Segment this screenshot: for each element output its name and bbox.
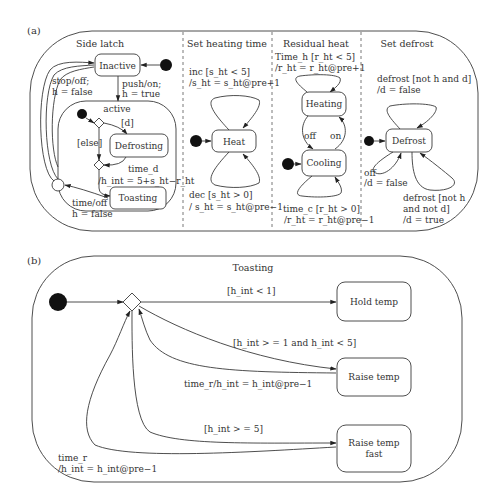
transition-label: defrost [not h <box>403 193 465 203</box>
transition-label: [h_int < 1] <box>227 286 276 297</box>
transition-label: /h_int = 5+s_ht−r_ht <box>98 176 195 187</box>
initial-state-dot <box>190 135 202 147</box>
transition-label: defrost [not h and d] <box>377 74 471 84</box>
region-title: Set defrost <box>380 38 433 49</box>
transition-label: [else] <box>77 138 102 148</box>
initial-state-dot <box>282 158 294 170</box>
transition-label: time_d <box>128 164 159 175</box>
transition-label: [h_int > = 1 and h_int < 5] <box>233 338 356 349</box>
region-title: Residual heat <box>283 38 349 49</box>
transition-label: Time_h [r_ht < 5] <box>275 52 355 63</box>
transition-label: and not d] <box>403 204 450 214</box>
choice-pseudostate <box>94 118 104 128</box>
transition-label: /d = true <box>403 215 444 225</box>
transition-label: h = true <box>122 89 160 99</box>
state-label: active <box>103 104 130 114</box>
transition-label: /d = false <box>377 85 421 95</box>
state-label: fast <box>366 449 383 459</box>
state-label: Defrosting <box>115 141 164 151</box>
transition-label: h = false <box>72 209 113 219</box>
state-title: Toasting <box>233 262 274 273</box>
panel-b: (b) Toasting [h_int < 1] Hold temp [h_in… <box>27 255 462 482</box>
transition-label: / s_ht = s_ht@pre−1 <box>189 202 283 213</box>
transition-label: h = false <box>52 87 93 97</box>
region-title: Set heating time <box>187 38 267 49</box>
panel-a: (a) Side latch Inactive push/on; h = tru… <box>27 25 478 231</box>
choice-pseudostate <box>94 160 104 170</box>
transition-label: time_c [r_ht > 0] <box>283 204 360 215</box>
transition-label: /d = false <box>364 178 408 188</box>
transition-label: on <box>330 131 341 141</box>
region-title: Side latch <box>76 38 124 49</box>
transition-label: [d] <box>121 118 134 128</box>
transition-label: off <box>304 131 316 141</box>
state-label: Cooling <box>306 158 341 168</box>
transition-label: inc [s_ht < 5] <box>189 67 250 78</box>
state-label: Raise temp <box>348 438 400 448</box>
state-label: Defrost <box>392 136 426 146</box>
state-label: Toasting <box>119 193 158 203</box>
transition-label: time/off <box>72 198 108 208</box>
transition-label: off <box>364 168 376 178</box>
initial-state-dot <box>49 293 67 311</box>
transition-label: /r_ht = r_ht@pre−1 <box>284 215 374 226</box>
transition-label: push/on; <box>122 79 161 89</box>
state-label: Heat <box>223 137 246 147</box>
transition-label: time_r/h_int = h_int@pre−1 <box>184 379 312 390</box>
transition-label: time_r <box>58 453 88 464</box>
transition-label: stop/off; <box>52 76 89 86</box>
region-residual-heat: Residual heat Time_h [r_ht < 5] /r_ht = … <box>275 38 374 226</box>
panel-b-label: (b) <box>27 255 41 266</box>
initial-state-dot <box>77 109 87 119</box>
initial-state-dot <box>364 136 374 146</box>
choice-pseudostate <box>123 293 141 311</box>
panel-a-label: (a) <box>27 25 41 36</box>
state-label: Raise temp <box>348 372 400 382</box>
transition-label: [h_int > = 5] <box>204 424 263 435</box>
state-label: Hold temp <box>350 297 398 307</box>
region-side-latch: Side latch Inactive push/on; h = true ac… <box>41 38 195 219</box>
state-label: Heating <box>306 99 343 109</box>
initial-state-dot <box>160 59 172 71</box>
state-label: Inactive <box>99 61 136 71</box>
statechart-diagram: (a) Side latch Inactive push/on; h = tru… <box>0 0 483 504</box>
region-set-heating-time: Set heating time inc [s_ht < 5] /s_ht = … <box>187 38 283 213</box>
transition-label: /h_int = h_int@pre−1 <box>58 464 157 475</box>
transition-label: dec [s_ht > 0] <box>189 190 253 201</box>
region-set-defrost: Set defrost defrost [not h and d] /d = f… <box>364 38 471 225</box>
transition-label: /s_ht = s_ht@pre+1 <box>189 78 280 89</box>
transition-label: /r_ht = r_ht@pre+1 <box>275 63 365 74</box>
